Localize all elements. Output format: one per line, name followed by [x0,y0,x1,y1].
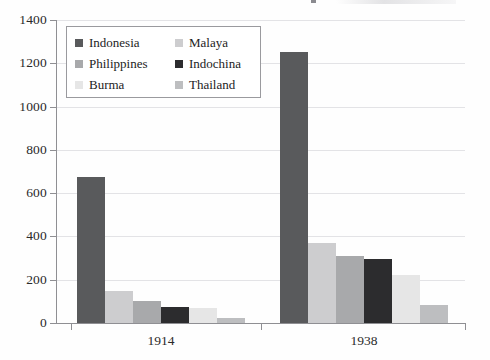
bar-chart: 0200400600800100012001400 19141938 Indon… [0,0,490,360]
legend-swatch-icon [75,39,83,47]
legend-entry-malaya: Malaya [175,36,261,50]
legend-swatch-icon [175,81,183,89]
y-axis-tick [50,150,57,151]
bar-philippines-1938 [336,256,364,323]
y-axis-tick-label: 600 [3,186,47,200]
bar-indochina-1938 [364,259,392,323]
y-axis-tick-label: 0 [3,316,47,330]
x-axis-tick [261,324,262,330]
legend-label: Indochina [189,57,241,71]
legend-entry-burma: Burma [75,78,175,92]
legend-swatch-icon [175,60,183,68]
legend-label: Indonesia [89,36,140,50]
legend-entry-indonesia: Indonesia [75,36,175,50]
legend-grid: IndonesiaMalayaPhilippinesIndochinaBurma… [75,32,252,95]
x-axis-tick [465,324,466,330]
y-axis-tick-label: 1400 [3,13,47,27]
bar-malaya-1938 [308,243,336,323]
legend-entry-philippines: Philippines [75,57,175,71]
scan-artifact [336,0,456,4]
y-axis-tick-label: 200 [3,273,47,287]
y-axis-tick-label: 800 [3,143,47,157]
legend-entry-indochina: Indochina [175,57,261,71]
y-axis-tick [50,236,57,237]
scan-artifact-dot [311,0,316,3]
x-axis-tick [71,324,72,330]
bar-thailand-1938 [420,305,448,323]
x-axis-tick-label: 1938 [324,333,404,348]
legend-label: Burma [89,78,124,92]
y-axis-tick [50,63,57,64]
y-axis-tick-label: 1200 [3,56,47,70]
bar-indonesia-1914 [77,177,105,323]
y-axis-tick-label: 400 [3,229,47,243]
legend-label: Malaya [189,36,228,50]
y-axis-tick [50,280,57,281]
legend-label: Philippines [89,57,148,71]
bar-philippines-1914 [133,301,161,323]
y-axis-labels: 0200400600800100012001400 [0,0,47,360]
legend-swatch-icon [175,39,183,47]
bar-indochina-1914 [161,307,189,323]
y-axis-tick [50,323,57,324]
y-axis-tick [50,193,57,194]
legend-swatch-icon [75,60,83,68]
y-axis-tick-label: 1000 [3,100,47,114]
legend-entry-thailand: Thailand [175,78,261,92]
legend-label: Thailand [189,78,235,92]
bar-burma-1914 [189,308,217,323]
legend-swatch-icon [75,81,83,89]
legend: IndonesiaMalayaPhilippinesIndochinaBurma… [66,26,261,98]
bar-malaya-1914 [105,291,133,323]
y-axis-tick [50,20,57,21]
x-axis-tick-label: 1914 [121,333,201,348]
y-axis-tick [50,107,57,108]
bar-indonesia-1938 [280,52,308,323]
bar-burma-1938 [392,275,420,323]
